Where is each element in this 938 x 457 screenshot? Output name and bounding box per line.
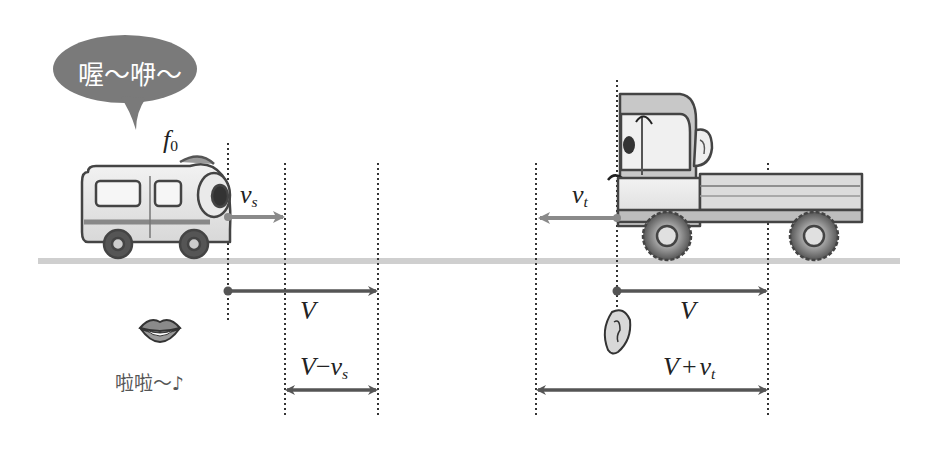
velocity-subscript: t xyxy=(711,365,715,382)
observer-sound-speed-label: V xyxy=(680,296,696,326)
van-icon xyxy=(82,156,230,258)
source-velocity-label: vs xyxy=(240,180,258,211)
speed-symbol: V xyxy=(300,352,316,381)
velocity-symbol: v xyxy=(700,352,712,381)
observer-velocity-label: vt xyxy=(572,180,588,211)
ground-line xyxy=(38,258,900,264)
speed-symbol: V xyxy=(663,352,679,381)
velocity-symbol: v xyxy=(572,180,584,209)
speech-bubble-text: 喔～咿～ xyxy=(78,54,182,91)
frequency-subscript: 0 xyxy=(170,137,178,154)
observer-relative-speed-label: V+vt xyxy=(663,352,715,383)
lips-caption: 啦啦～♪ xyxy=(115,368,184,395)
minus-operator: − xyxy=(316,352,331,381)
ear-icon xyxy=(605,310,630,353)
truck-icon xyxy=(608,94,862,260)
velocity-symbol: v xyxy=(240,180,252,209)
source-relative-speed-label: V−vs xyxy=(300,352,348,383)
source-frequency-label: f0 xyxy=(163,125,178,155)
source-sound-speed-label: V xyxy=(300,296,316,326)
plus-operator: + xyxy=(679,352,700,381)
doppler-diagram: 喔～咿～ f0 vs vt V V 啦啦～♪ V−vs V+vt xyxy=(0,0,938,457)
velocity-subscript: t xyxy=(584,193,588,210)
velocity-symbol: v xyxy=(331,352,343,381)
lips-icon xyxy=(140,320,180,342)
velocity-subscript: s xyxy=(342,365,348,382)
velocity-subscript: s xyxy=(252,193,258,210)
